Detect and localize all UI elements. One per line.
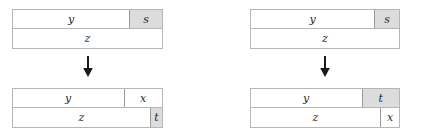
- table-row: y x: [13, 89, 162, 108]
- table-row: y t: [251, 89, 399, 108]
- cell-s: s: [129, 10, 162, 28]
- table-row: z x: [251, 108, 399, 127]
- down-arrow-icon: [317, 56, 333, 78]
- down-arrow-icon: [80, 56, 96, 78]
- cell-x: x: [124, 89, 163, 107]
- table-row: z t: [13, 108, 162, 127]
- table-before: y s z: [12, 9, 163, 49]
- table-row: z: [13, 29, 162, 48]
- cell-y: y: [251, 89, 362, 107]
- diagram-group-right: y s z y t z x: [224, 0, 448, 131]
- table-after: y x z t: [12, 88, 163, 128]
- cell-z: z: [13, 29, 162, 48]
- cell-y: y: [251, 10, 374, 28]
- table-row: z: [251, 29, 399, 48]
- cell-z: z: [13, 108, 150, 127]
- cell-x: x: [380, 108, 399, 127]
- cell-t: t: [150, 108, 162, 127]
- cell-y: y: [13, 89, 124, 107]
- cell-y: y: [13, 10, 129, 28]
- cell-t: t: [362, 89, 400, 107]
- cell-z: z: [251, 108, 380, 127]
- table-row: y s: [251, 10, 399, 29]
- cell-s: s: [374, 10, 399, 28]
- diagram-group-left: y s z y x z t: [0, 0, 224, 131]
- table-after: y t z x: [250, 88, 400, 128]
- cell-z: z: [251, 29, 399, 48]
- table-row: y s: [13, 10, 162, 29]
- table-before: y s z: [250, 9, 400, 49]
